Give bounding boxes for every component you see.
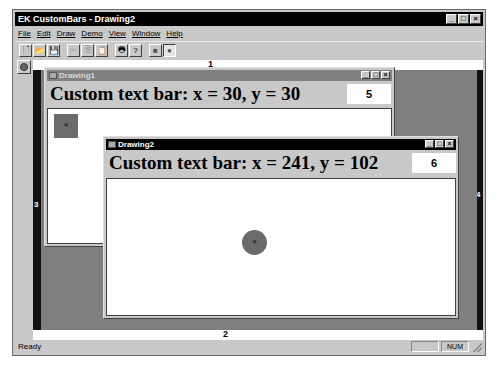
help-question-icon: ? [133, 46, 137, 55]
app-titlebar[interactable]: EK CustomBars - Drawing2 _ □ × [15, 12, 483, 26]
new-file-icon: 🗋 [23, 43, 29, 57]
status-panel-num: NUM [441, 341, 469, 352]
child-titlebar[interactable]: Drawing2 _ □ × [106, 139, 456, 150]
menu-edit[interactable]: Edit [37, 27, 51, 40]
drawing-canvas[interactable]: × [106, 178, 456, 316]
toolbar: 🗋 📂 💾 ✂ ⎘ 📋 🖶 ? ■ ● [15, 41, 483, 58]
status-panel-1 [411, 341, 439, 352]
cut-button[interactable]: ✂ [67, 44, 80, 57]
window-controls: _ □ × [446, 14, 481, 24]
printer-icon: 🖶 [118, 43, 126, 57]
child-title: Drawing1 [59, 71, 95, 80]
menu-demo[interactable]: Demo [81, 27, 102, 40]
bar-bottom-label: 2 [223, 329, 228, 339]
copy-icon: ⎘ [85, 45, 91, 55]
text-bar-coordinates: Custom text bar: x = 241, y = 102 [109, 152, 378, 174]
left-tool-button[interactable] [17, 60, 31, 74]
shape-center-mark: × [252, 237, 257, 246]
text-bar-number: 6 [412, 153, 456, 173]
square-icon: ■ [153, 46, 158, 55]
mdi-client-area: Drawing1 _ □ × Custom text bar: x = 30, … [41, 70, 477, 330]
child-title: Drawing2 [118, 140, 154, 149]
print-button[interactable]: 🖶 [115, 44, 128, 57]
bar-left-label: 3 [34, 200, 38, 209]
app-window: EK CustomBars - Drawing2 _ □ × File Edit… [12, 9, 486, 356]
maximize-button[interactable]: □ [435, 140, 444, 148]
open-button[interactable]: 📂 [33, 44, 46, 57]
custom-bar-left: 3 [33, 70, 41, 330]
shape-center-mark: × [64, 120, 69, 129]
square-shape[interactable]: × [54, 114, 78, 138]
save-disk-icon: 💾 [49, 46, 59, 55]
close-button[interactable]: × [445, 140, 454, 148]
child-window-controls: _ □ × [425, 140, 454, 148]
minimize-button[interactable]: _ [361, 71, 370, 79]
close-button[interactable]: × [381, 71, 390, 79]
minimize-button[interactable]: _ [446, 14, 457, 24]
minimize-button[interactable]: _ [425, 140, 434, 148]
maximize-button[interactable]: □ [371, 71, 380, 79]
open-folder-icon: 📂 [35, 46, 45, 55]
status-text: Ready [18, 342, 41, 351]
custom-text-bar: Custom text bar: x = 30, y = 30 5 [47, 82, 392, 106]
document-icon [49, 72, 57, 79]
menu-window[interactable]: Window [132, 27, 160, 40]
text-bar-number: 5 [347, 84, 391, 104]
document-icon [108, 141, 116, 148]
text-bar-coordinates: Custom text bar: x = 30, y = 30 [50, 83, 300, 105]
menu-draw[interactable]: Draw [57, 27, 76, 40]
child-titlebar[interactable]: Drawing1 _ □ × [47, 70, 392, 81]
circle-icon: ● [167, 46, 172, 55]
scissors-icon: ✂ [70, 46, 77, 55]
draw-rectangle-button[interactable]: ■ [149, 44, 162, 57]
menu-help[interactable]: Help [166, 27, 182, 40]
copy-button[interactable]: ⎘ [81, 44, 94, 57]
resize-grip[interactable] [472, 342, 482, 352]
circle-shape[interactable]: × [242, 230, 267, 255]
menu-file[interactable]: File [18, 27, 31, 40]
close-button[interactable]: × [470, 14, 481, 24]
app-title: EK CustomBars - Drawing2 [18, 14, 135, 24]
menu-view[interactable]: View [109, 27, 126, 40]
paste-icon: 📋 [97, 46, 107, 55]
status-bar: Ready NUM [15, 340, 483, 353]
save-button[interactable]: 💾 [47, 44, 60, 57]
menubar: File Edit Draw Demo View Window Help [15, 27, 483, 40]
help-button[interactable]: ? [129, 44, 142, 57]
draw-circle-button[interactable]: ● [163, 44, 176, 57]
custom-text-bar: Custom text bar: x = 241, y = 102 6 [106, 151, 456, 175]
new-button[interactable]: 🗋 [19, 44, 32, 57]
paste-button[interactable]: 📋 [95, 44, 108, 57]
child-window-drawing2[interactable]: Drawing2 _ □ × Custom text bar: x = 241,… [103, 136, 459, 319]
maximize-button[interactable]: □ [458, 14, 469, 24]
child-window-controls: _ □ × [361, 71, 390, 79]
circle-tool-icon [20, 63, 28, 71]
custom-bar-bottom: 2 [33, 330, 483, 340]
